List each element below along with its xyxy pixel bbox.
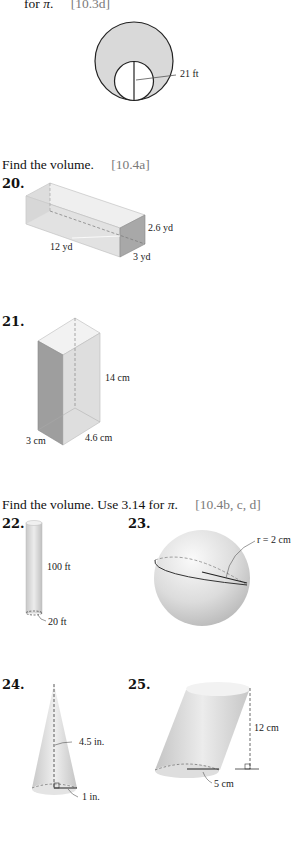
oblique-cylinder-figure [0, 0, 302, 810]
oblique-cylinder-height-label: 12 cm [254, 722, 279, 733]
oblique-cylinder-radius-label: 5 cm [214, 778, 234, 789]
